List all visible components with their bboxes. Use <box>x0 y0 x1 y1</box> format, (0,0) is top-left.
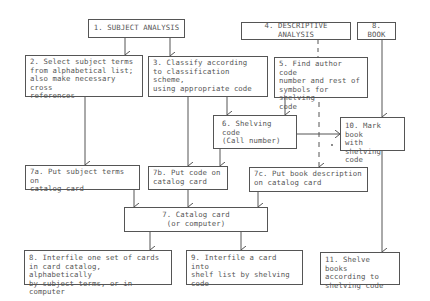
box-7-catalog-card: 7. Catalog card (or computer) <box>124 207 268 232</box>
box-9-interfile-shelf-list: 9. Interfile a card into shelf list by s… <box>186 250 303 285</box>
box-11-shelve-books: 11. Shelve books according to shelving c… <box>320 252 400 285</box>
box-1-subject-analysis: 1. SUBJECT ANALYSIS <box>88 19 185 38</box>
box-5-find-author-code: 5. Find author code number and rest of s… <box>274 57 368 98</box>
box-8-interfile-card-catalog: 8. Interfile one set of cards in card ca… <box>24 250 172 285</box>
box-3-classify: 3. Classify according to classification … <box>148 56 268 97</box>
box-7c-put-book-description: 7c. Put book description on catalog card <box>249 167 368 192</box>
box-7a-put-subject-terms: 7a. Put subject terms on catalog card <box>25 165 140 190</box>
box-10-mark-book: 10. Mark book with shelving code <box>340 117 405 151</box>
stray-dot <box>331 144 333 146</box>
box-2-select-subject-terms: 2. Select subject terms from alphabetica… <box>25 55 143 97</box>
box-6-shelving-code: 6. Shelving code (Call number) <box>213 115 297 149</box>
box-4-descriptive-analysis: 4. DESCRIPTIVE ANALYSIS <box>241 22 351 40</box>
box-8-book: 8. BOOK <box>357 22 396 40</box>
box-7b-put-code: 7b. Put code on catalog card <box>148 166 228 190</box>
